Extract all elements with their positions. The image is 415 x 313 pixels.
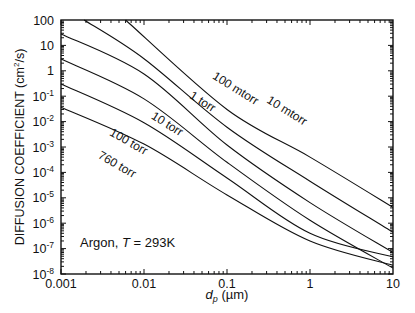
- x-tick-label: 0.01: [132, 277, 156, 291]
- x-tick-label: 0.001: [45, 277, 76, 291]
- curve-label: 10 mtorr: [264, 93, 309, 129]
- x-axis-label: dp (µm): [206, 287, 249, 304]
- curve-1-torr: [61, 34, 393, 253]
- curve-label: 1 torr: [187, 88, 218, 115]
- y-tick-label: 1: [47, 64, 54, 78]
- y-tick-label: 100: [33, 14, 54, 28]
- x-tick-label: 1: [307, 277, 314, 291]
- y-axis-label: DIFFUSION COEFFICIENT (cm2/s): [12, 49, 27, 246]
- data-curves: [61, 20, 393, 268]
- curve-label: 760 torr: [96, 148, 139, 181]
- curve-100-mtorr: [84, 20, 393, 232]
- y-tick-label: 10-3: [33, 139, 55, 155]
- y-tick-label: 10: [40, 39, 54, 53]
- y-tick-label: 10-4: [33, 164, 55, 180]
- curve-label: 10 torr: [149, 109, 186, 139]
- curve-label: 100 torr: [107, 125, 150, 158]
- diffusion-coefficient-chart: 10 mtorr100 mtorr1 torr10 torr100 torr76…: [0, 0, 415, 313]
- x-tick-label: 10: [386, 277, 400, 291]
- y-tick-labels: 10010110-110-210-310-410-510-610-710-8: [33, 14, 55, 282]
- chart-annotation: Argon, T = 293K: [80, 235, 175, 250]
- y-tick-label: 10-7: [33, 240, 55, 256]
- y-tick-label: 10-2: [33, 113, 55, 129]
- y-tick-label: 10-6: [33, 215, 55, 231]
- y-tick-label: 10-1: [33, 88, 55, 104]
- y-tick-label: 10-5: [33, 189, 55, 205]
